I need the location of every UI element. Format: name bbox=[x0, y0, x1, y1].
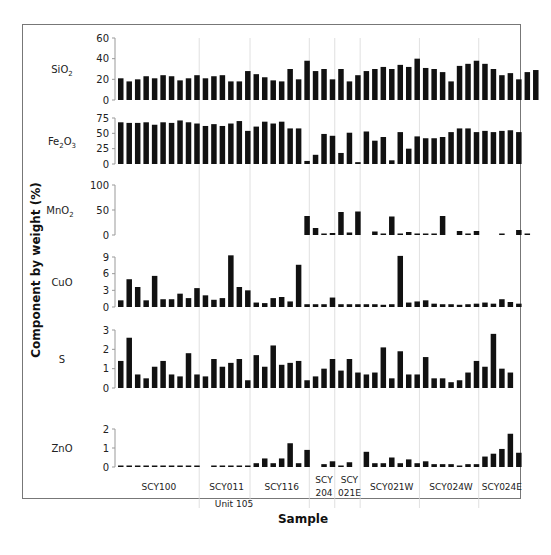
bar bbox=[160, 299, 166, 307]
bar bbox=[398, 65, 404, 100]
bar bbox=[228, 255, 234, 307]
bar bbox=[364, 304, 370, 307]
bar bbox=[169, 76, 175, 100]
bar bbox=[254, 303, 260, 307]
bar bbox=[525, 234, 531, 236]
bar bbox=[499, 234, 505, 236]
bar bbox=[499, 131, 505, 164]
bar bbox=[406, 67, 412, 100]
bar bbox=[457, 305, 463, 307]
bar bbox=[474, 304, 480, 307]
bar bbox=[431, 304, 437, 307]
bar bbox=[126, 123, 132, 164]
bar bbox=[194, 374, 200, 388]
bar bbox=[440, 304, 446, 307]
group-label: SCY024W bbox=[429, 482, 473, 492]
bar bbox=[516, 453, 522, 467]
bar bbox=[330, 461, 336, 467]
panel-label-sio2: SiO2 bbox=[51, 64, 72, 78]
bar bbox=[516, 79, 522, 100]
bar bbox=[330, 79, 336, 100]
bar bbox=[491, 334, 497, 388]
bar bbox=[135, 374, 141, 388]
bar bbox=[355, 212, 361, 236]
bar bbox=[177, 376, 183, 388]
bar bbox=[152, 466, 158, 468]
bar bbox=[135, 79, 141, 100]
panel-label-zno: ZnO bbox=[51, 443, 72, 454]
y-axis-title: Component by weight (%) bbox=[29, 182, 43, 358]
bar bbox=[245, 380, 251, 388]
bar bbox=[126, 279, 132, 307]
bar bbox=[338, 69, 344, 100]
y-tick-label: 0 bbox=[103, 462, 109, 473]
group-label: SCY bbox=[341, 475, 359, 485]
bar bbox=[398, 463, 404, 467]
bar bbox=[304, 304, 310, 307]
bar bbox=[474, 132, 480, 164]
bar bbox=[372, 373, 378, 388]
bar bbox=[431, 464, 437, 467]
bar bbox=[118, 466, 124, 468]
panel-label-s: S bbox=[59, 354, 65, 365]
y-tick-label: 0 bbox=[103, 95, 109, 106]
bar bbox=[186, 78, 192, 100]
bar bbox=[177, 120, 183, 164]
bar bbox=[143, 122, 149, 164]
panel-label-fe2o3: Fe2O3 bbox=[48, 136, 76, 150]
bar bbox=[270, 80, 276, 100]
y-tick-label: 25 bbox=[96, 143, 109, 154]
bar bbox=[448, 464, 454, 467]
bar bbox=[423, 300, 429, 307]
bar bbox=[448, 132, 454, 164]
bar bbox=[516, 304, 522, 307]
bar bbox=[313, 155, 319, 164]
bar bbox=[482, 64, 488, 100]
bar bbox=[270, 463, 276, 467]
bar bbox=[186, 122, 192, 164]
bar bbox=[279, 122, 285, 164]
bar bbox=[296, 361, 302, 388]
bar bbox=[237, 287, 243, 307]
y-tick-label: 100 bbox=[90, 180, 109, 191]
bar bbox=[296, 265, 302, 307]
bar bbox=[152, 276, 158, 307]
bar bbox=[330, 233, 336, 235]
bar bbox=[220, 367, 226, 388]
panel-label-mno2: MnO2 bbox=[46, 205, 73, 219]
bar bbox=[126, 338, 132, 388]
bar bbox=[237, 359, 243, 388]
bar bbox=[347, 133, 353, 164]
bar bbox=[364, 374, 370, 388]
bar bbox=[203, 126, 209, 164]
bar bbox=[169, 374, 175, 388]
bar bbox=[398, 256, 404, 307]
bar bbox=[381, 67, 387, 100]
bar bbox=[211, 300, 217, 307]
bar bbox=[448, 304, 454, 307]
bar bbox=[431, 234, 437, 236]
bar bbox=[491, 132, 497, 164]
group-label: SCY021W bbox=[370, 482, 414, 492]
bar bbox=[211, 124, 217, 164]
bar bbox=[237, 121, 243, 164]
bar bbox=[431, 138, 437, 164]
bar bbox=[296, 128, 302, 164]
bar bbox=[381, 463, 387, 467]
bar bbox=[338, 304, 344, 307]
bar bbox=[194, 75, 200, 100]
bar bbox=[135, 123, 141, 164]
bar bbox=[321, 369, 327, 388]
bar bbox=[525, 72, 531, 100]
bar bbox=[169, 466, 175, 468]
bar bbox=[287, 128, 293, 164]
bar bbox=[414, 374, 420, 388]
bar bbox=[254, 463, 260, 467]
bar bbox=[440, 464, 446, 467]
group-label: 204 bbox=[315, 488, 332, 498]
y-tick-label: 2 bbox=[103, 344, 109, 355]
y-tick-label: 50 bbox=[96, 205, 109, 216]
bar bbox=[313, 304, 319, 307]
bar bbox=[414, 59, 420, 100]
bar bbox=[465, 234, 471, 236]
